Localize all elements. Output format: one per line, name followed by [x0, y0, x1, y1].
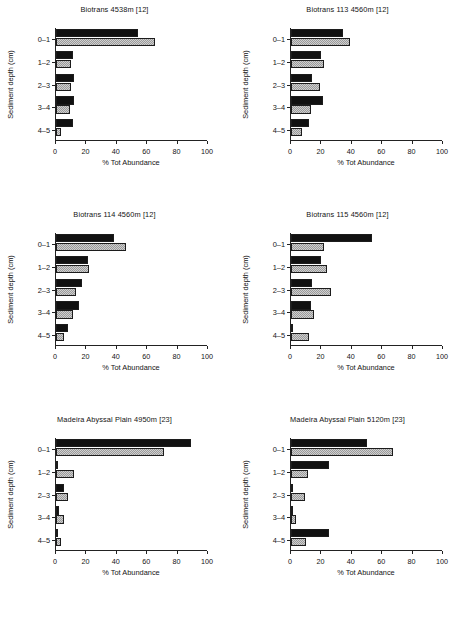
- x-axis-title: % Tot Abundance: [290, 158, 442, 167]
- y-axis-tick-label: 4–5: [38, 125, 50, 134]
- y-axis-tick: [52, 335, 55, 336]
- y-axis-tick-label: 3–4: [38, 308, 50, 317]
- y-axis-tick-label: 4–5: [273, 125, 285, 134]
- x-axis-tick-label: 100: [436, 147, 448, 156]
- x-axis-title: % Tot Abundance: [55, 363, 207, 372]
- x-axis-line: [55, 550, 207, 551]
- bar-black: [291, 96, 323, 104]
- x-axis-title: % Tot Abundance: [290, 363, 442, 372]
- x-axis-tick-label: 80: [173, 557, 181, 566]
- x-axis-tick: [442, 141, 443, 144]
- x-axis-tick: [207, 346, 208, 349]
- y-axis-tick-label: 2–3: [273, 285, 285, 294]
- bar-black: [291, 301, 311, 309]
- x-axis-tick: [442, 551, 443, 554]
- plot-area: 0204060801000–11–22–33–44–5: [290, 438, 442, 551]
- x-axis-tick-label: 60: [377, 352, 385, 361]
- chart-panel: Biotrans 4538m [12]Sediment depth (cm)02…: [0, 0, 235, 205]
- bar-black: [56, 484, 64, 492]
- x-axis-line: [55, 140, 207, 141]
- y-axis-tick: [52, 290, 55, 291]
- x-axis-tick: [177, 346, 178, 349]
- bar-black: [56, 119, 73, 127]
- x-axis-tick-label: 80: [173, 147, 181, 156]
- y-axis-tick: [52, 449, 55, 450]
- x-axis-line: [290, 140, 442, 141]
- bar-gray: [56, 310, 73, 318]
- x-axis-tick-label: 40: [112, 352, 120, 361]
- y-axis-tick: [287, 495, 290, 496]
- bar-black: [56, 256, 88, 264]
- x-axis-tick-label: 40: [347, 352, 355, 361]
- plot-area: 0204060801000–11–22–33–44–5: [290, 233, 442, 346]
- x-axis-tick-label: 80: [408, 352, 416, 361]
- x-axis-tick-label: 60: [377, 557, 385, 566]
- bar-gray: [291, 538, 306, 546]
- bar-gray: [291, 448, 393, 456]
- x-axis-tick: [55, 141, 56, 144]
- y-axis-tick: [52, 130, 55, 131]
- bar-black: [56, 301, 79, 309]
- bar-gray: [56, 333, 64, 341]
- y-axis-tick: [52, 495, 55, 496]
- x-axis-tick: [320, 346, 321, 349]
- x-axis-tick: [146, 346, 147, 349]
- bar-black: [291, 256, 321, 264]
- y-axis-tick-label: 2–3: [273, 490, 285, 499]
- chart-panel: Madeira Abyssal Plain 5120m [23]Sediment…: [235, 410, 466, 612]
- bar-black: [56, 439, 191, 447]
- bar-gray: [56, 60, 71, 68]
- x-axis-tick-label: 100: [436, 557, 448, 566]
- y-axis-tick-label: 1–2: [273, 57, 285, 66]
- y-axis-tick: [52, 244, 55, 245]
- y-axis-tick-label: 3–4: [38, 513, 50, 522]
- x-axis-tick-label: 80: [173, 352, 181, 361]
- x-axis-tick-label: 60: [377, 147, 385, 156]
- chart-title: Biotrans 113 4560m [12]: [235, 5, 460, 14]
- x-axis-tick: [290, 346, 291, 349]
- y-axis-tick-label: 2–3: [273, 80, 285, 89]
- bar-gray: [56, 128, 61, 136]
- bar-black: [291, 74, 312, 82]
- x-axis-tick: [290, 141, 291, 144]
- x-axis-tick-label: 20: [316, 352, 324, 361]
- x-axis-tick: [116, 551, 117, 554]
- x-axis-tick: [290, 551, 291, 554]
- x-axis-tick-label: 100: [201, 147, 213, 156]
- bar-gray: [56, 105, 70, 113]
- x-axis-tick-label: 40: [112, 557, 120, 566]
- bar-gray: [291, 515, 296, 523]
- y-axis-title: Sediment depth (cm): [241, 28, 253, 141]
- bar-gray: [56, 243, 126, 251]
- bar-gray: [56, 288, 76, 296]
- bar-gray: [291, 83, 320, 91]
- x-axis-tick-label: 40: [112, 147, 120, 156]
- y-axis-tick: [287, 107, 290, 108]
- x-axis-tick: [381, 551, 382, 554]
- y-axis-tick-label: 4–5: [273, 330, 285, 339]
- x-axis-tick-label: 40: [347, 557, 355, 566]
- x-axis-title: % Tot Abundance: [55, 158, 207, 167]
- x-axis-tick: [351, 141, 352, 144]
- bar-gray: [291, 243, 324, 251]
- x-axis-tick-label: 20: [81, 557, 89, 566]
- bar-gray: [56, 83, 71, 91]
- bar-black: [56, 279, 82, 287]
- bar-black: [56, 29, 138, 37]
- bar-black: [291, 119, 309, 127]
- bar-gray: [56, 265, 89, 273]
- y-axis-tick: [52, 517, 55, 518]
- x-axis-tick-label: 60: [142, 352, 150, 361]
- chart-title: Biotrans 4538m [12]: [0, 5, 229, 14]
- panel-grid: Biotrans 4538m [12]Sediment depth (cm)02…: [0, 0, 466, 612]
- x-axis-tick-label: 40: [347, 147, 355, 156]
- y-axis-tick: [52, 85, 55, 86]
- bar-black: [291, 506, 293, 514]
- x-axis-tick: [177, 141, 178, 144]
- y-axis-tick: [52, 107, 55, 108]
- x-axis-tick-label: 60: [142, 147, 150, 156]
- y-axis-tick: [287, 62, 290, 63]
- y-axis-tick-label: 1–2: [38, 467, 50, 476]
- chart-title: Madeira Abyssal Plain 4950m [23]: [0, 415, 229, 424]
- bar-black: [56, 74, 74, 82]
